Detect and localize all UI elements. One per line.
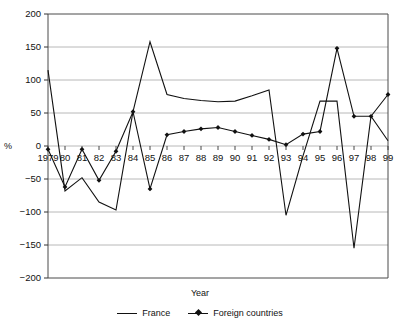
legend-line-diamond-icon [188,308,208,318]
legend-item-foreign-countries: Foreign countries [188,308,283,318]
x-tick-label: 84 [128,152,139,163]
y-tick-label: 150 [25,41,41,52]
x-tick-label: 82 [94,152,105,163]
x-axis-title: Year [0,288,400,298]
x-axis-ticks [48,146,388,150]
data-point-marker [199,126,204,131]
y-tick-label: −150 [20,239,41,250]
y-tick-label: 0 [36,140,41,151]
data-point-marker [148,187,153,192]
data-point-marker [80,147,85,152]
series-france [48,42,388,249]
series-line [48,48,388,189]
x-tick-label: 99 [383,152,394,163]
x-tick-label: 86 [162,152,173,163]
y-tick-label: 200 [25,8,41,19]
x-tick-label: 93 [281,152,292,163]
legend-label: Foreign countries [213,308,283,318]
data-point-marker [165,132,170,137]
x-tick-label: 96 [332,152,343,163]
chart-figure: % 200150100500−50−100−150−200 1979808182… [0,0,400,335]
line-chart-plot: 200150100500−50−100−150−200 197980818283… [0,0,400,300]
legend-label: France [142,308,170,318]
series-line [48,42,388,249]
x-axis-tick-labels: 1979808182838485868788899091929394959697… [37,152,393,163]
chart-legend: France Foreign countries [0,308,400,318]
data-point-marker [46,147,51,152]
x-tick-label: 87 [179,152,190,163]
y-axis-tick-labels: 200150100500−50−100−150−200 [20,8,48,283]
data-point-marker [250,133,255,138]
y-tick-label: −100 [20,206,41,217]
data-point-marker [267,137,272,142]
x-tick-label: 1979 [37,152,58,163]
data-point-marker [182,129,187,134]
data-point-marker [352,114,357,119]
data-point-marker [318,129,323,134]
x-tick-label: 92 [264,152,275,163]
x-tick-label: 85 [145,152,156,163]
legend-item-france: France [117,308,170,318]
x-tick-label: 88 [196,152,207,163]
x-tick-label: 91 [247,152,258,163]
y-tick-label: −200 [20,272,41,283]
x-tick-label: 98 [366,152,377,163]
x-tick-label: 89 [213,152,224,163]
x-tick-label: 95 [315,152,326,163]
data-point-marker [63,185,68,190]
y-tick-label: 50 [30,107,41,118]
legend-line-icon [117,308,137,318]
data-series-group [46,42,391,249]
x-tick-label: 97 [349,152,360,163]
y-axis-title: % [4,141,12,151]
y-tick-label: 100 [25,74,41,85]
data-point-marker [233,129,238,134]
data-point-marker [216,125,221,130]
x-tick-label: 90 [230,152,241,163]
y-tick-label: −50 [25,173,41,184]
